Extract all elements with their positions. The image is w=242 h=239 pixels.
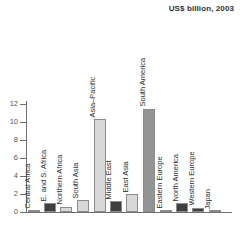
- bar-category-label: Central Africa: [23, 163, 31, 208]
- bar-group: Middle East: [110, 104, 122, 212]
- plot-area: Central AfricaE. and S. AfricaNorthern A…: [26, 104, 232, 212]
- y-axis-tick: [20, 212, 26, 213]
- y-axis-tick-label: 12: [0, 100, 18, 108]
- bar[interactable]: [143, 109, 155, 213]
- bar[interactable]: [60, 207, 72, 212]
- bar-group: South America: [143, 104, 155, 212]
- y-axis-tick: [20, 122, 26, 123]
- bar-group: South Asia: [77, 104, 89, 212]
- x-axis-line: [26, 212, 232, 213]
- bar[interactable]: [110, 201, 122, 212]
- bar-category-label: Asia–Pacific: [89, 76, 97, 117]
- bar-category-label: Northern Africa: [55, 155, 63, 205]
- bar[interactable]: [77, 200, 89, 212]
- y-axis-tick: [20, 158, 26, 159]
- bar-group: Japan: [209, 104, 221, 212]
- bar-category-label: Western Europe: [187, 151, 195, 205]
- y-axis-tick-label: 4: [0, 172, 18, 180]
- y-axis-tick-label: 0: [0, 208, 18, 216]
- y-axis-tick: [20, 104, 26, 105]
- bar[interactable]: [126, 194, 138, 212]
- y-axis-tick-label: 8: [0, 136, 18, 144]
- y-axis-tick-label: 10: [0, 118, 18, 126]
- bar-category-label: Middle East: [105, 160, 113, 199]
- y-axis-tick: [20, 140, 26, 141]
- bar-category-label: E. and S. Africa: [39, 149, 47, 201]
- y-axis-tick-label: 6: [0, 154, 18, 162]
- bar-category-label: Japan: [204, 189, 212, 209]
- y-axis-tick: [20, 176, 26, 177]
- bar[interactable]: [28, 210, 40, 212]
- y-axis-tick-label: 2: [0, 190, 18, 198]
- bar[interactable]: [160, 210, 172, 212]
- y-axis-tick: [20, 194, 26, 195]
- bar-category-label: East Asia: [121, 161, 129, 192]
- bar-category-label: South America: [138, 58, 146, 107]
- bar-group: East Asia: [126, 104, 138, 212]
- bar-category-label: Eastern Europe: [155, 157, 163, 209]
- bar[interactable]: [209, 210, 221, 212]
- bar-category-label: South Asia: [72, 162, 80, 198]
- bar-category-label: North America: [171, 153, 179, 201]
- chart-title: US$ billion, 2003: [169, 4, 234, 13]
- bar-chart-figure: US$ billion, 2003 Central AfricaE. and S…: [0, 0, 242, 239]
